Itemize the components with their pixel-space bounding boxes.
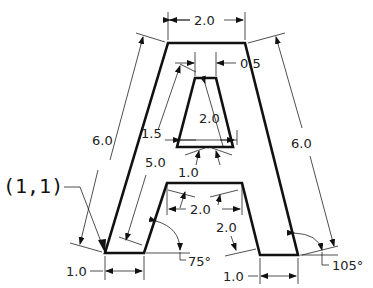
dim-right-foot: 1.0 [223, 258, 298, 284]
dim-crossbar-thickness: 1.0 [178, 165, 199, 180]
dim-right-inner: 2.0 [216, 195, 256, 256]
label-right-foot: 1.0 [223, 269, 244, 284]
label-left-angle: 75° [188, 254, 211, 269]
label-right-outer: 6.0 [291, 136, 312, 151]
dim-apex-offset: 0.5 [175, 52, 261, 76]
letter-a-drawing: 2.0 0.5 6.0 6.0 5.0 1.5 [0, 0, 373, 288]
label-right-angle: 105° [332, 258, 363, 273]
dim-left-outer: 6.0 [70, 33, 165, 252]
label-crossbar-thickness: 1.0 [178, 165, 199, 180]
dim-inner-left: 5.0 [119, 64, 196, 245]
label-inner-left: 5.0 [145, 155, 166, 170]
label-crossbar-width: 2.0 [190, 202, 211, 217]
label-left-outer: 6.0 [92, 133, 113, 148]
dim-left-angle: 75° [146, 221, 211, 269]
dim-crossbar-width: 2.0 [167, 185, 242, 217]
drawing-canvas: 2.0 0.5 6.0 6.0 5.0 1.5 [0, 0, 373, 288]
dim-left-foot: 1.0 [66, 256, 144, 280]
dim-right-angle: 105° [294, 233, 363, 273]
label-triangle-height: 1.5 [141, 126, 162, 141]
label-top-width: 2.0 [194, 13, 215, 28]
label-triangle-side: 2.0 [199, 111, 220, 126]
dim-right-outer: 6.0 [248, 33, 338, 255]
label-right-inner: 2.0 [216, 220, 237, 235]
origin-callout: (1,1) [3, 174, 106, 253]
dim-top-width: 2.0 [168, 12, 245, 40]
label-left-foot: 1.0 [66, 264, 87, 279]
label-origin: (1,1) [3, 174, 63, 198]
dim-triangle-height: 1.5 [141, 126, 237, 145]
label-apex-offset: 0.5 [240, 56, 261, 71]
